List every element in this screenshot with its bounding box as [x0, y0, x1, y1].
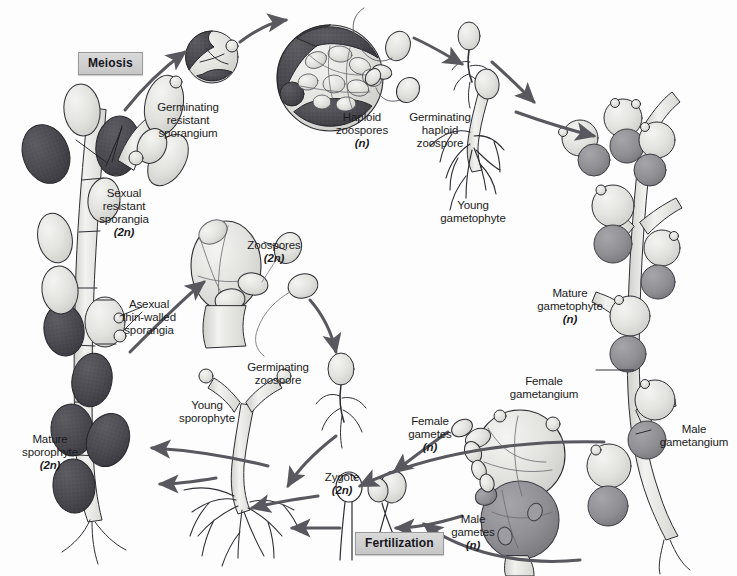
label-mature-gametophyte: Mature gametophyte (n) — [523, 274, 617, 339]
gametangium-pair-5 — [641, 230, 680, 299]
label-ploidy: (n) — [423, 441, 437, 453]
label-text: Haploid zoospores — [336, 111, 388, 136]
label-text: Zygote — [325, 471, 360, 483]
label-text: Mature sporophyte — [22, 433, 78, 458]
phase-box-meiosis: Meiosis — [78, 52, 143, 75]
label-ploidy: (n) — [355, 137, 369, 149]
label-asexual-thin-walled-sporangia: Asexual thin-walled sporangia — [108, 285, 190, 337]
label-text: Germinating haploid zoospore — [409, 111, 471, 149]
arrow-zygote-germling — [252, 496, 318, 508]
label-ploidy: (2n) — [114, 226, 135, 238]
label-text: Germinating zoospore — [247, 361, 309, 386]
label-young-sporophyte: Young sporophyte — [160, 386, 254, 425]
label-text: Male gametangium — [660, 423, 729, 448]
label-ploidy: (n) — [466, 539, 480, 551]
label-male-gametes: Male gametes (n) — [436, 500, 510, 565]
label-female-gametes: Female gametes (n) — [392, 402, 468, 467]
label-sexual-resistant-sporangia: Sexual resistant sporangia (2n) — [88, 174, 160, 252]
arrow-into-young-sporophyte — [160, 478, 216, 484]
label-ploidy: (2n) — [264, 252, 285, 264]
phase-box-fertilization: Fertilization — [355, 532, 444, 555]
label-mature-sporophyte: Mature sporophyte (2n) — [4, 420, 96, 485]
label-haploid-zoospores: Haploid zoospores (n) — [327, 98, 397, 163]
label-ploidy: (n) — [563, 313, 577, 325]
label-text: Sexual resistant sporangia — [99, 187, 149, 225]
label-ploidy: (2n) — [40, 459, 61, 471]
arrow-zoospores-to-germinating — [310, 300, 336, 352]
label-text: Asexual thin-walled sporangia — [122, 298, 176, 336]
arrow-young-to-mature-sporophyte — [152, 448, 268, 466]
label-text: Female gametes — [408, 415, 451, 440]
label-ploidy: (2n) — [332, 484, 353, 496]
label-germinating-resistant-sporangium: Germinating resistant sporangium — [138, 88, 238, 140]
life-cycle-diagram: Meiosis Fertilization Germinating resist… — [0, 0, 737, 576]
germinating-resistant-sporangium — [186, 31, 238, 83]
arrow-zoospore-to-germinating — [414, 38, 462, 64]
label-text: Zoospores — [247, 239, 300, 251]
label-germinating-zoospore: Germinating zoospore — [234, 348, 322, 387]
label-text: Mature gametophyte — [537, 287, 602, 312]
label-zygote: Zygote (2n) — [312, 458, 372, 510]
label-text: Female gametangium — [510, 375, 579, 400]
label-young-gametophyte: Young gametophyte — [424, 186, 522, 225]
arrow-sporangium-to-zoospores — [240, 20, 286, 42]
label-zoospores: Zoospores (2n) — [238, 226, 310, 278]
label-text: Male gametes — [451, 513, 494, 538]
label-text: Young gametophyte — [440, 199, 505, 224]
label-female-gametangium: Female gametangium — [494, 362, 594, 401]
gametangium-pair-1 — [604, 99, 644, 164]
label-text: Germinating resistant sporangium — [157, 101, 219, 139]
gametangium-pair-lower — [587, 444, 631, 526]
label-male-gametangium: Male gametangium — [652, 410, 736, 449]
label-germinating-haploid-zoospore: Germinating haploid zoospore — [392, 98, 488, 150]
germinating-zoospore — [316, 353, 366, 448]
label-text: Young sporophyte — [179, 399, 235, 424]
